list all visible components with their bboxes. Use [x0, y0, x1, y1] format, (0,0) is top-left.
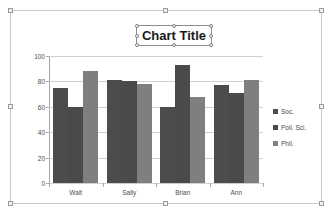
bar[interactable] — [68, 107, 83, 183]
bar[interactable] — [175, 65, 190, 183]
bar[interactable] — [190, 97, 205, 183]
chart-resize-handle-middle-left[interactable] — [8, 104, 13, 109]
chart-resize-handle-bottom-center[interactable] — [163, 201, 168, 206]
y-axis-tick-label: 80 — [38, 78, 45, 85]
bar-group — [103, 56, 157, 183]
title-resize-handle-bottom-center[interactable] — [172, 43, 176, 47]
y-axis-tick-label: 40 — [38, 129, 45, 136]
chart-resize-handle-top-left[interactable] — [8, 8, 13, 13]
bar-group — [156, 56, 210, 183]
legend-item[interactable]: Poli. Sci. — [273, 119, 321, 135]
bar[interactable] — [244, 80, 259, 183]
bar[interactable] — [83, 71, 98, 183]
x-axis-tick-mark — [210, 183, 211, 187]
bar[interactable] — [107, 80, 122, 183]
bar[interactable] — [137, 84, 152, 183]
y-axis-tick-label: 0 — [41, 180, 45, 187]
x-axis-tick-label: Ann — [230, 189, 242, 196]
x-axis-tick-mark — [263, 183, 264, 187]
legend-swatch-icon — [273, 109, 278, 114]
bar[interactable] — [214, 85, 229, 183]
legend-label: Poli. Sci. — [281, 124, 306, 131]
x-axis-tick-label: Brian — [175, 189, 190, 196]
chart-resize-handle-top-center[interactable] — [163, 8, 168, 13]
legend-swatch-icon — [273, 125, 278, 130]
x-axis-tick-mark — [156, 183, 157, 187]
y-axis-tick-label: 60 — [38, 103, 45, 110]
chart-object[interactable]: Chart Title 020406080100 Soc.Poli. Sci.P… — [10, 10, 322, 204]
x-axis-tick-label: Sally — [122, 189, 136, 196]
chart-resize-handle-bottom-right[interactable] — [319, 201, 324, 206]
title-resize-handle-top-left[interactable] — [135, 24, 139, 28]
legend-item[interactable]: Phil. — [273, 135, 321, 151]
x-axis-tick-mark — [103, 183, 104, 187]
title-resize-handle-middle-right[interactable] — [209, 34, 213, 38]
chart-title[interactable]: Chart Title — [136, 25, 212, 46]
bar[interactable] — [122, 81, 137, 183]
bar-group — [210, 56, 264, 183]
y-axis-tick-label: 20 — [38, 154, 45, 161]
title-resize-handle-bottom-right[interactable] — [209, 43, 213, 47]
legend-item[interactable]: Soc. — [273, 103, 321, 119]
bar[interactable] — [160, 107, 175, 183]
y-axis-tick-label: 100 — [34, 53, 45, 60]
title-resize-handle-middle-left[interactable] — [135, 34, 139, 38]
title-resize-handle-top-right[interactable] — [209, 24, 213, 28]
title-resize-handle-bottom-left[interactable] — [135, 43, 139, 47]
x-axis-tick-mark — [49, 183, 50, 187]
plot-area[interactable]: 020406080100 — [49, 56, 263, 183]
title-resize-handle-top-center[interactable] — [172, 24, 176, 28]
bar[interactable] — [229, 93, 244, 183]
bar-group — [49, 56, 103, 183]
chart-resize-handle-bottom-left[interactable] — [8, 201, 13, 206]
chart-resize-handle-top-right[interactable] — [319, 8, 324, 13]
legend-swatch-icon — [273, 141, 278, 146]
x-axis-tick-label: Walt — [69, 189, 82, 196]
chart-legend[interactable]: Soc.Poli. Sci.Phil. — [273, 103, 321, 151]
legend-label: Soc. — [281, 108, 294, 115]
legend-label: Phil. — [281, 140, 294, 147]
bar[interactable] — [53, 88, 68, 183]
